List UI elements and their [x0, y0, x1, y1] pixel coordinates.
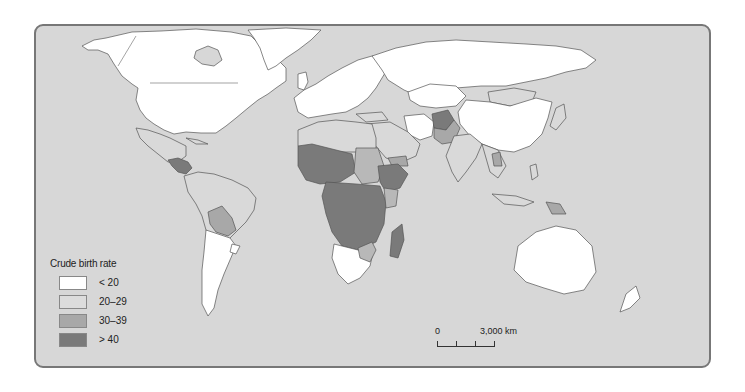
legend: Crude birth rate < 20 20–29 30–39 > 40 — [50, 258, 160, 349]
scale-line — [437, 340, 495, 347]
region-australia — [514, 226, 596, 294]
scale-tick — [475, 341, 476, 347]
scale-tick — [494, 341, 495, 347]
legend-item-lt20: < 20 — [50, 273, 160, 292]
legend-swatch — [59, 276, 87, 290]
legend-item-30-39: 30–39 — [50, 311, 160, 330]
map-frame: Crude birth rate < 20 20–29 30–39 > 40 0… — [34, 24, 711, 368]
legend-item-20-29: 20–29 — [50, 292, 160, 311]
region-madagascar — [390, 224, 404, 258]
scale-bar: 0 3,000 km — [433, 326, 503, 350]
legend-label: 20–29 — [99, 296, 127, 307]
region-horn-africa — [378, 164, 408, 192]
legend-label: > 40 — [99, 334, 119, 345]
scale-tick — [456, 341, 457, 347]
legend-label: < 20 — [99, 277, 119, 288]
legend-label: 30–39 — [99, 315, 127, 326]
region-russia — [372, 40, 596, 96]
region-central-america — [168, 158, 192, 174]
scale-end-label: 3,000 km — [480, 326, 517, 336]
region-png — [546, 202, 566, 214]
legend-item-gt40: > 40 — [50, 330, 160, 349]
scale-tick — [437, 341, 438, 347]
region-europe — [294, 56, 388, 118]
region-central-africa — [322, 182, 386, 250]
legend-title: Crude birth rate — [50, 258, 160, 269]
region-southern-cone — [202, 230, 236, 316]
legend-swatch — [59, 295, 87, 309]
legend-swatch — [59, 314, 87, 328]
scale-start-label: 0 — [435, 326, 440, 336]
legend-swatch — [59, 333, 87, 347]
region-north-america — [82, 29, 286, 134]
